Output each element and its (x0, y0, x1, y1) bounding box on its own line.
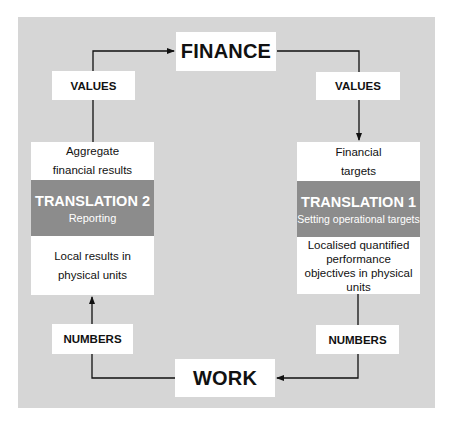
translation-1-title: TRANSLATION 1 (301, 194, 416, 210)
values-label-left: VALUES (52, 71, 135, 100)
values-label-left-text: VALUES (71, 80, 117, 92)
translation-1-subtitle: Setting operational targets (297, 213, 420, 225)
finance-label: FINANCE (181, 40, 271, 63)
left-top-line-1: Aggregate (66, 142, 119, 161)
work-label: WORK (193, 367, 257, 390)
translation-1-band: TRANSLATION 1 Setting operational target… (297, 181, 420, 237)
values-label-right-text: VALUES (335, 80, 381, 92)
values-label-right: VALUES (316, 72, 400, 100)
right-bottom-line-3: objectives in physical (304, 266, 412, 280)
finance-node: FINANCE (176, 32, 276, 71)
translation-2-title: TRANSLATION 2 (35, 193, 150, 209)
left-bottom-line-1: Local results in (54, 247, 131, 266)
numbers-label-left-text: NUMBERS (63, 333, 121, 345)
left-top-line-2: financial results (53, 161, 132, 180)
right-bottom-line-1: Localised quantified (308, 238, 410, 252)
numbers-label-left: NUMBERS (52, 324, 133, 354)
work-node: WORK (175, 359, 275, 397)
right-top-line-1: Financial (335, 143, 381, 162)
right-top-line-2: targets (341, 162, 376, 181)
localised-objectives-box: Localised quantified performance objecti… (297, 237, 420, 294)
numbers-label-right-text: NUMBERS (328, 334, 386, 346)
aggregate-financial-results-box: Aggregate financial results (31, 142, 154, 180)
right-bottom-line-4: units (346, 280, 370, 294)
translation-2-band: TRANSLATION 2 Reporting (31, 180, 154, 236)
local-results-box: Local results in physical units (31, 236, 154, 295)
numbers-label-right: NUMBERS (316, 325, 399, 354)
translation-2-subtitle: Reporting (69, 212, 117, 224)
right-bottom-line-2: performance (326, 252, 391, 266)
left-bottom-line-2: physical units (58, 266, 127, 285)
financial-targets-box: Financial targets (297, 142, 420, 181)
